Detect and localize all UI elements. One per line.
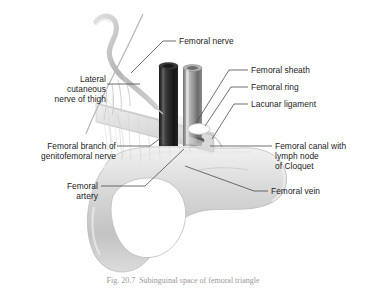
label-lateral-cutaneous-nerve-of-thigh: Lateral cutaneous nerve of thigh bbox=[10, 74, 106, 105]
label-femoral-artery: Femoral artery bbox=[28, 181, 98, 201]
artery-shaft bbox=[159, 66, 178, 146]
label-femoral-vein: Femoral vein bbox=[271, 186, 320, 196]
leader-femoral-sheath bbox=[196, 70, 248, 123]
anatomy-figure: Femoral nerve Femoral sheath Femoral rin… bbox=[0, 0, 366, 288]
label-femoral-sheath: Femoral sheath bbox=[251, 65, 310, 75]
vein-lumen bbox=[187, 66, 198, 70]
femoral-branch-of-genitofemoral-nerve bbox=[128, 84, 163, 114]
label-femoral-ring: Femoral ring bbox=[251, 82, 299, 92]
label-femoral-branch-of-genitofemoral-nerve: Femoral branch of genitofemoral nerve bbox=[8, 141, 116, 161]
hip-bone bbox=[87, 147, 286, 272]
label-femoral-nerve: Femoral nerve bbox=[179, 36, 234, 46]
femoral-artery-vessel bbox=[159, 63, 178, 146]
label-femoral-canal-with-lymph-node-of-cloquet: Femoral canal with lymph node of Cloquet bbox=[275, 141, 346, 172]
figure-caption: Fig. 20.7 Subinguinal space of femoral t… bbox=[0, 276, 366, 286]
leader-lacunar-ligament bbox=[212, 104, 248, 139]
artery-specular-highlight bbox=[162, 68, 165, 144]
leader-femoral-ring bbox=[205, 87, 248, 126]
vein-specular-highlight bbox=[186, 70, 189, 144]
label-lacunar-ligament: Lacunar ligament bbox=[251, 99, 316, 109]
artery-lumen bbox=[163, 64, 174, 68]
